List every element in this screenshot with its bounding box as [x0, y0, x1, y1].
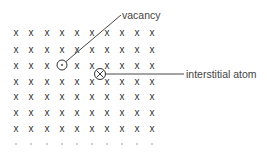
- vacancy-leader-line: [66, 15, 121, 62]
- lattice-atom: x: [150, 107, 155, 118]
- lattice-atom-partial: [91, 143, 92, 144]
- lattice-defect-diagram: xxxxxxxxxxxxxxxxxxxxxxxxxxxxxxxxxxxxxxxx…: [0, 0, 267, 154]
- lattice-atom: x: [105, 44, 110, 55]
- lattice-atom: x: [135, 123, 140, 134]
- lattice-atom-partial: [106, 143, 107, 144]
- lattice-atom: x: [29, 107, 34, 118]
- lattice-atom: x: [105, 107, 110, 118]
- lattice-atoms: xxxxxxxxxxxxxxxxxxxxxxxxxxxxxxxxxxxxxxxx…: [14, 27, 155, 134]
- lattice-atom: x: [90, 44, 95, 55]
- lattice-atom-partial: [136, 143, 137, 144]
- lattice-atom: x: [120, 76, 125, 87]
- lattice-atom: x: [150, 76, 155, 87]
- lattice-atom-partial: [121, 143, 122, 144]
- lattice-atom: x: [14, 27, 19, 38]
- lattice-atom: x: [14, 123, 19, 134]
- lattice-atom: x: [120, 123, 125, 134]
- lattice-atom: x: [60, 44, 65, 55]
- lattice-atom: x: [45, 91, 50, 102]
- lattice-atom: x: [14, 76, 19, 87]
- lattice-atom: x: [14, 60, 19, 71]
- lattice-atom: x: [90, 107, 95, 118]
- lattice-atom-partial: [46, 143, 47, 144]
- lattice-atom: x: [60, 123, 65, 134]
- lattice-atom: x: [14, 107, 19, 118]
- lattice-atom: x: [29, 91, 34, 102]
- lattice-atom: x: [29, 44, 34, 55]
- lattice-atom: x: [150, 60, 155, 71]
- lattice-atom: x: [150, 91, 155, 102]
- lattice-atom: x: [45, 60, 50, 71]
- lattice-atom: x: [150, 27, 155, 38]
- lattice-atom: x: [135, 107, 140, 118]
- lattice-atom: x: [120, 27, 125, 38]
- lattice-atom-partial: [61, 143, 62, 144]
- lattice-atom: x: [29, 60, 34, 71]
- lattice-atom-partial: [151, 143, 152, 144]
- lattice-atom: x: [150, 123, 155, 134]
- lattice-atom: x: [45, 44, 50, 55]
- lattice-atom: x: [120, 107, 125, 118]
- lattice-atom: x: [135, 60, 140, 71]
- lattice-atom: x: [135, 27, 140, 38]
- lattice-atom: x: [14, 91, 19, 102]
- lattice-atom: x: [135, 76, 140, 87]
- lattice-atom: x: [45, 123, 50, 134]
- lattice-atom: x: [135, 44, 140, 55]
- lattice-atom: x: [60, 27, 65, 38]
- lattice-atom: x: [29, 123, 34, 134]
- lattice-atom: x: [60, 76, 65, 87]
- lattice-atom: x: [90, 60, 95, 71]
- lattice-atom: x: [120, 44, 125, 55]
- lattice-atom: x: [75, 123, 80, 134]
- lattice-atom: x: [75, 91, 80, 102]
- lattice-atom: x: [105, 91, 110, 102]
- lattice-atom: x: [29, 27, 34, 38]
- lattice-atom: x: [90, 76, 95, 87]
- lattice-atom: x: [75, 76, 80, 87]
- lattice-atom: x: [135, 91, 140, 102]
- interstitial-atom-label: interstitial atom: [186, 68, 257, 80]
- lattice-atom: x: [45, 107, 50, 118]
- lattice-atom: x: [90, 91, 95, 102]
- lattice-atom-partial: [76, 143, 77, 144]
- lattice-atom: x: [45, 76, 50, 87]
- lattice-atom-partial: [30, 143, 31, 144]
- lattice-atom: x: [75, 60, 80, 71]
- lattice-atom: x: [60, 107, 65, 118]
- lattice-atom-partial: [15, 143, 16, 144]
- lattice-atom: x: [90, 27, 95, 38]
- lattice-atom: x: [105, 60, 110, 71]
- lattice-atom: x: [75, 107, 80, 118]
- lattice-atom: x: [120, 91, 125, 102]
- lattice-atom: x: [29, 76, 34, 87]
- lattice-partial-row: [15, 143, 152, 144]
- lattice-atom: x: [120, 60, 125, 71]
- lattice-atom: x: [105, 123, 110, 134]
- lattice-atom: x: [14, 44, 19, 55]
- lattice-atom: x: [105, 76, 110, 87]
- lattice-atom: x: [45, 27, 50, 38]
- lattice-atom: x: [90, 123, 95, 134]
- lattice-atom: x: [150, 44, 155, 55]
- lattice-atom: x: [60, 91, 65, 102]
- vacancy-label: vacancy: [122, 9, 161, 21]
- vacancy-center-dot: [61, 64, 63, 66]
- lattice-atom: x: [75, 27, 80, 38]
